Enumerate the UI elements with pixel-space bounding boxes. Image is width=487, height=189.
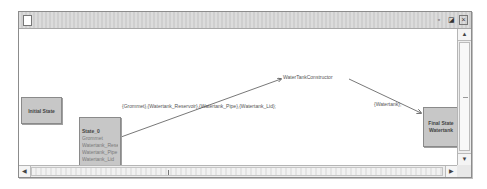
state-0-title: State_0: [82, 128, 118, 135]
vertical-scroll-thumb[interactable]: [459, 42, 470, 151]
scroll-corner: [457, 165, 471, 177]
minimize-button[interactable]: ▫: [435, 15, 443, 24]
final-state-label: Final State: [428, 120, 453, 127]
final-state-node[interactable]: Final State Watertank: [423, 107, 457, 147]
maximize-button[interactable]: ◪: [447, 15, 455, 24]
transition-2-label: {Watertank};: [374, 101, 401, 107]
scroll-up-arrow-icon[interactable]: ▲: [458, 29, 471, 41]
operation-node-label[interactable]: WaterTankConstructor: [283, 74, 333, 80]
diagram-canvas[interactable]: Initial State State_0 Grommet Watertank_…: [19, 29, 457, 165]
scroll-down-arrow-icon[interactable]: ▼: [458, 153, 471, 165]
diagram-window: ▫ ◪ × Initial State State_0 Grommet Wate…: [18, 11, 472, 178]
title-bar[interactable]: ▫ ◪ ×: [19, 12, 471, 29]
horizontal-scrollbar[interactable]: ◀ ▶: [19, 165, 457, 177]
state-0-node[interactable]: State_0 Grommet Watertank_Reservoir Wate…: [79, 117, 121, 165]
state-0-variable: Watertank_Reservoir: [82, 142, 118, 149]
grip-icon: [168, 170, 169, 175]
window-icon: [23, 15, 32, 26]
vertical-scrollbar[interactable]: ▲ ▼: [457, 29, 471, 165]
transition-1-label: {Grommet},{Watertank_Reservoir},{Waterta…: [122, 103, 276, 109]
scroll-left-arrow-icon[interactable]: ◀: [19, 166, 31, 177]
state-0-variable: Watertank_Lid: [82, 156, 118, 163]
initial-state-node[interactable]: Initial State: [21, 97, 62, 124]
grip-icon: [463, 97, 468, 98]
close-button[interactable]: ×: [459, 15, 468, 25]
state-0-variable: Watertank_Pipe: [82, 149, 118, 156]
final-state-product: Watertank: [429, 127, 453, 134]
scroll-right-arrow-icon[interactable]: ▶: [445, 166, 457, 177]
horizontal-scroll-thumb[interactable]: [31, 167, 443, 176]
edge-operation-to-final: [349, 79, 421, 113]
initial-state-label: Initial State: [28, 108, 55, 114]
state-0-variable: Grommet: [82, 135, 118, 142]
